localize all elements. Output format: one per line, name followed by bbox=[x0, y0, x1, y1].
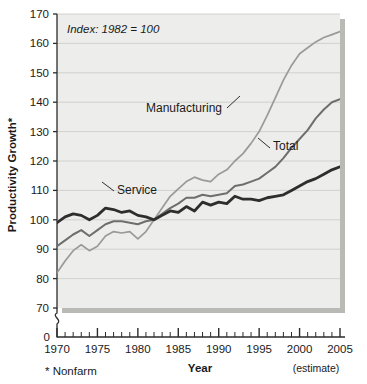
x-tick-label-2000: 2000 bbox=[287, 343, 313, 355]
y-tick-label-160: 160 bbox=[30, 37, 49, 49]
y-tick-label-170: 170 bbox=[30, 8, 49, 20]
y-tick-label-120: 120 bbox=[30, 155, 49, 167]
annotation-manufacturing: Manufacturing bbox=[146, 101, 222, 115]
productivity-growth-chart: 708090100110120130140150160170 197019751… bbox=[0, 0, 367, 384]
x-axis-title: Year bbox=[188, 362, 213, 374]
x-tick-label-1995: 1995 bbox=[246, 343, 272, 355]
x-tick-label-2005: 2005 bbox=[327, 343, 353, 355]
y-axis-title: Productivity Growth* bbox=[6, 117, 18, 232]
x-tick-label-1975: 1975 bbox=[85, 343, 111, 355]
annotation-total: Total bbox=[273, 139, 298, 153]
y-tick-label-100: 100 bbox=[30, 214, 49, 226]
y-tick-label-70: 70 bbox=[36, 302, 49, 314]
annotation-service: Service bbox=[117, 183, 157, 197]
y-tick-label-140: 140 bbox=[30, 96, 49, 108]
x-axis-estimate-note: (estimate) bbox=[293, 362, 340, 374]
footnote: * Nonfarm bbox=[45, 365, 97, 377]
y-tick-label-110: 110 bbox=[31, 184, 49, 196]
y-tick-label-80: 80 bbox=[36, 273, 49, 285]
x-tick-label-1980: 1980 bbox=[125, 343, 151, 355]
y-tick-zero: 0 bbox=[44, 331, 50, 343]
y-tick-label-90: 90 bbox=[36, 243, 49, 255]
x-tick-label-1970: 1970 bbox=[44, 343, 70, 355]
chart-canvas: 708090100110120130140150160170 197019751… bbox=[0, 0, 367, 384]
x-tick-label-1990: 1990 bbox=[206, 343, 232, 355]
x-tick-label-1985: 1985 bbox=[165, 343, 191, 355]
y-tick-label-130: 130 bbox=[30, 126, 49, 138]
y-tick-label-150: 150 bbox=[30, 67, 49, 79]
index-note: Index: 1982 = 100 bbox=[67, 23, 160, 35]
